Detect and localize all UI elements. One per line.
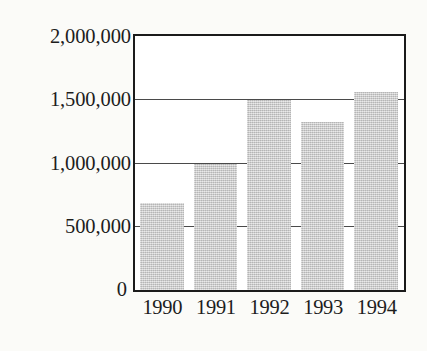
bar-1991 xyxy=(194,164,238,291)
bar-1992 xyxy=(247,100,291,290)
x-tick-label-1991: 1991 xyxy=(189,297,243,318)
x-tick-label-1990: 1990 xyxy=(136,297,190,318)
bar-chart: 2,000,000 1,500,000 1,000,000 500,000 0 … xyxy=(0,0,427,351)
y-tick-label-1000000: 1,000,000 xyxy=(50,153,131,174)
x-tick-label-1992: 1992 xyxy=(243,297,297,318)
bars-container xyxy=(135,36,404,290)
bar-1990 xyxy=(140,203,184,290)
x-tick-label-1994: 1994 xyxy=(350,297,404,318)
x-axis-tick-labels: 1990 1991 1992 1993 1994 xyxy=(133,297,406,331)
bar-1993 xyxy=(301,122,345,290)
x-tick-label-1993: 1993 xyxy=(296,297,350,318)
y-tick-label-0: 0 xyxy=(117,279,127,300)
bar-1994 xyxy=(354,92,398,290)
y-tick-label-500000: 500,000 xyxy=(65,216,131,237)
y-tick-label-1500000: 1,500,000 xyxy=(50,89,131,110)
plot-area xyxy=(133,34,406,292)
y-tick-label-2000000: 2,000,000 xyxy=(50,26,131,47)
